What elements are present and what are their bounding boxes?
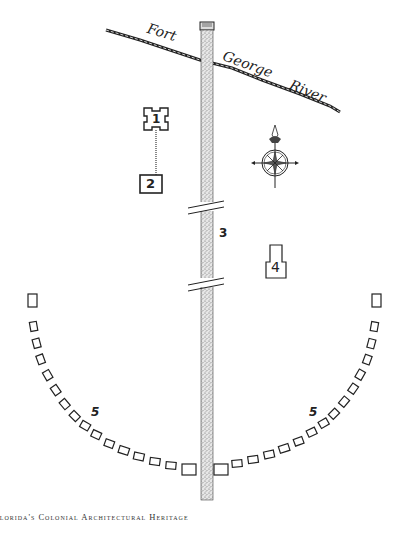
feature-label-5-right: 5 [309, 405, 317, 419]
feature-label-1: 1 [152, 112, 160, 126]
avenue-3 [188, 22, 224, 500]
feature-label-2: 2 [146, 176, 155, 191]
feature-label-5-left: 5 [91, 405, 99, 419]
cabins-right-arc [214, 294, 381, 475]
feature-label-4: 4 [271, 259, 280, 275]
feature-label-3: 3 [219, 226, 227, 240]
cabins-left-arc [28, 294, 196, 475]
plantation-map [0, 0, 404, 545]
compass-rose-icon [251, 125, 299, 188]
river-line [106, 30, 340, 112]
running-head: Florida's Colonial Architectural Heritag… [0, 512, 189, 522]
